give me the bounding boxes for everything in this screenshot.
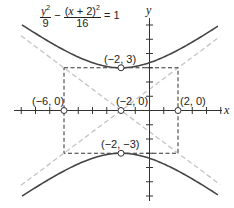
- plus-two: + 2): [74, 5, 96, 17]
- label-right-covertex: (2, 0): [180, 95, 206, 107]
- exp: 2: [46, 4, 50, 11]
- hyperbola-equation: y2 9 − (x + 2)2 16 = 1: [40, 2, 120, 29]
- left-covertex-point: [61, 108, 67, 114]
- right-covertex-point: [175, 108, 181, 114]
- y-axis-label: y: [145, 3, 152, 17]
- denominator-16: 16: [75, 18, 89, 29]
- center-point: [118, 108, 124, 114]
- label-vertex-lower: (−2, −3): [101, 138, 140, 150]
- vertex-lower-point: [118, 150, 124, 156]
- hyperbola-lower-branch: [22, 153, 218, 196]
- fraction-y-term: y2 9: [40, 2, 51, 29]
- minus-sign: −: [54, 9, 60, 21]
- equals-one: = 1: [104, 9, 120, 21]
- label-left-covertex: (−6, 0): [32, 95, 64, 107]
- fraction-x-term: (x + 2)2 16: [64, 2, 101, 29]
- label-center: (−2, 0): [116, 95, 148, 107]
- vertex-upper-point: [118, 65, 124, 71]
- denominator-9: 9: [42, 18, 50, 29]
- label-vertex-upper: (−2, 3): [104, 53, 136, 65]
- exp: 2: [96, 4, 100, 11]
- hyperbola-diagram: x y (−2, 3) (−2, −3) (−6, 0) (2, 0) (−2,…: [0, 0, 234, 208]
- x-axis-label: x: [223, 103, 230, 117]
